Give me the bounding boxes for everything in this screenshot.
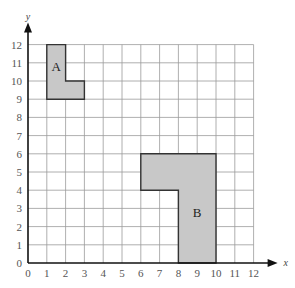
y-tick-label: 9 xyxy=(17,93,23,105)
x-tick-label: 10 xyxy=(211,267,223,279)
y-tick-label: 7 xyxy=(17,130,23,142)
x-tick-label: 4 xyxy=(100,267,106,279)
y-tick-label: 5 xyxy=(17,166,23,178)
x-tick-label: 6 xyxy=(138,267,144,279)
y-tick-label: 3 xyxy=(17,202,23,214)
x-tick-label: 3 xyxy=(82,267,88,279)
y-tick-label: 11 xyxy=(11,57,22,69)
y-tick-label: 2 xyxy=(17,221,23,233)
shape-label-b: B xyxy=(193,205,202,220)
shape-label-a: A xyxy=(52,59,62,74)
y-tick-label: 12 xyxy=(11,39,22,51)
x-tick-label: 9 xyxy=(194,267,200,279)
y-tick-label: 6 xyxy=(17,148,23,160)
x-tick-label: 2 xyxy=(63,267,69,279)
y-axis-label: y xyxy=(25,11,31,22)
x-tick-label: 1 xyxy=(44,267,50,279)
x-axis-arrow-icon xyxy=(268,259,278,267)
x-tick-label: 12 xyxy=(248,267,259,279)
y-tick-label: 4 xyxy=(17,184,23,196)
y-tick-label: 0 xyxy=(17,257,23,269)
y-axis-arrow-icon xyxy=(24,23,32,33)
x-axis-label: x xyxy=(283,257,289,268)
y-tick-label: 8 xyxy=(17,111,23,123)
x-tick-label: 11 xyxy=(230,267,241,279)
x-tick-label: 8 xyxy=(176,267,182,279)
y-tick-label: 1 xyxy=(17,239,23,251)
x-tick-label: 0 xyxy=(25,267,31,279)
x-tick-label: 7 xyxy=(157,267,163,279)
coordinate-grid: ABxy01234567891011120123456789101112 xyxy=(0,0,295,288)
y-tick-label: 10 xyxy=(11,75,23,87)
x-tick-label: 5 xyxy=(119,267,125,279)
